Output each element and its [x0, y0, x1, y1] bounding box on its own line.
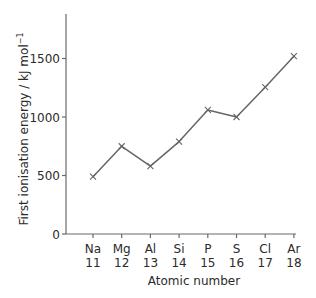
x-tick-label-symbol: Na: [85, 242, 101, 256]
x-tick-label-number: 14: [171, 256, 186, 270]
x-axis-title: Atomic number: [148, 274, 240, 288]
x-tick-label-symbol: Mg: [113, 242, 131, 256]
y-axis-title-superscript: −1: [16, 32, 25, 44]
x-tick-label-number: 18: [286, 256, 301, 270]
y-axis-title: First ionisation energy / kJ mol−1: [16, 32, 31, 225]
x-tick-label-symbol: Cl: [259, 242, 271, 256]
x-tick-label-number: 15: [200, 256, 215, 270]
x-axis: Na11Mg12Al13Si14P15S16Cl17Ar18: [66, 234, 302, 270]
x-marker-icon: [90, 174, 96, 180]
y-axis: 050010001500: [29, 14, 66, 242]
ionisation-energy-chart: 050010001500 Na11Mg12Al13Si14P15S16Cl17A…: [0, 0, 316, 298]
x-tick-label-symbol: S: [233, 242, 241, 256]
y-tick-label: 1500: [29, 52, 60, 66]
x-tick-label-symbol: Al: [145, 242, 157, 256]
x-tick-label-number: 11: [85, 256, 100, 270]
x-marker-icon: [176, 139, 182, 145]
y-tick-label: 1000: [29, 111, 60, 125]
x-marker-icon: [119, 143, 125, 149]
series-line: [93, 56, 294, 177]
y-axis-title-main: First ionisation energy / kJ mol: [17, 44, 31, 225]
x-tick-label-number: 17: [258, 256, 273, 270]
x-tick-label-number: 16: [229, 256, 244, 270]
y-tick-label: 0: [52, 228, 60, 242]
plot-area: [90, 53, 297, 180]
x-tick-label-number: 13: [143, 256, 158, 270]
x-tick-label-symbol: Ar: [287, 242, 300, 256]
x-tick-label-symbol: P: [204, 242, 211, 256]
y-tick-label: 500: [37, 169, 60, 183]
x-tick-label-symbol: Si: [174, 242, 185, 256]
x-marker-icon: [147, 163, 153, 169]
x-tick-label-number: 12: [114, 256, 129, 270]
x-marker-icon: [291, 53, 297, 59]
x-marker-icon: [262, 84, 268, 90]
